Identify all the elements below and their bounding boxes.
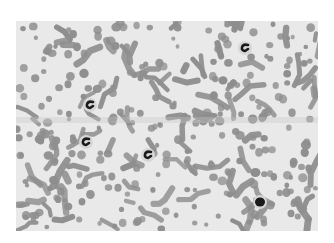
red-blood-cell xyxy=(55,84,63,91)
rbc-clump xyxy=(285,28,287,46)
red-blood-cell xyxy=(286,125,292,131)
red-blood-cell xyxy=(23,215,29,220)
red-blood-cell xyxy=(209,174,218,182)
red-blood-cell xyxy=(65,80,72,88)
red-blood-cell xyxy=(101,175,107,181)
red-blood-cell xyxy=(150,187,155,193)
red-blood-cell xyxy=(105,184,112,191)
red-blood-cell xyxy=(171,36,175,40)
red-blood-cell xyxy=(29,23,38,31)
red-blood-cell xyxy=(35,135,45,144)
rbc-clump xyxy=(65,174,69,181)
red-blood-cell xyxy=(64,50,72,58)
rbc-clump xyxy=(82,173,102,186)
red-blood-cell xyxy=(20,26,26,31)
red-blood-cell xyxy=(210,59,217,65)
red-blood-cell xyxy=(16,134,23,141)
red-blood-cell xyxy=(98,151,104,156)
rbc-clump xyxy=(61,186,66,212)
red-blood-cell xyxy=(147,25,153,31)
leukocyte-nucleus-1 xyxy=(83,98,97,112)
leukocyte-nucleus-5 xyxy=(253,195,267,209)
red-blood-cell xyxy=(247,72,254,79)
rbc-clump xyxy=(77,47,100,64)
red-blood-cell xyxy=(133,219,140,226)
red-blood-cell xyxy=(218,111,223,116)
red-blood-cell xyxy=(156,172,161,177)
rbc-clump xyxy=(201,56,203,75)
red-blood-cell xyxy=(98,80,106,89)
red-blood-cell xyxy=(249,94,255,101)
blood-smear-micrograph xyxy=(16,21,318,231)
red-blood-cell xyxy=(298,164,305,170)
red-blood-cell xyxy=(125,191,130,196)
red-blood-cell xyxy=(79,198,86,205)
red-blood-cell xyxy=(290,158,298,167)
red-blood-cell xyxy=(137,110,144,117)
red-blood-cell xyxy=(79,69,88,78)
rbc-clump xyxy=(240,148,249,170)
red-blood-cell xyxy=(34,36,38,41)
rbc-clump xyxy=(175,79,198,82)
red-blood-cell xyxy=(286,57,292,64)
rbc-clump xyxy=(55,217,73,221)
rbc-clump xyxy=(44,204,51,216)
red-blood-cell xyxy=(152,123,157,129)
red-blood-cell xyxy=(261,135,268,141)
red-blood-cell xyxy=(250,144,256,150)
leukocyte-nucleus-4 xyxy=(141,148,155,162)
scan-band xyxy=(16,117,318,123)
red-blood-cell xyxy=(268,146,275,153)
red-blood-cell xyxy=(301,148,309,157)
rbc-clump xyxy=(69,165,87,169)
red-blood-cell xyxy=(96,156,104,164)
red-blood-cell xyxy=(279,95,287,104)
red-blood-cell xyxy=(205,27,212,33)
rbc-clump xyxy=(241,62,262,68)
leukocyte-nucleus-3 xyxy=(79,135,93,149)
rbc-clump xyxy=(28,200,43,202)
red-blood-cell xyxy=(209,160,214,165)
rbc-clump xyxy=(315,33,316,40)
rbc-clump xyxy=(154,188,173,204)
red-blood-cell xyxy=(94,32,102,41)
leukocyte-nucleus-2 xyxy=(238,41,252,55)
red-blood-cell xyxy=(158,225,166,231)
red-blood-cell xyxy=(162,208,170,216)
red-blood-cell xyxy=(20,64,28,72)
rbc-clump xyxy=(302,196,312,211)
red-blood-cell xyxy=(76,217,82,223)
red-blood-cell xyxy=(114,184,121,192)
rbc-clump xyxy=(184,65,187,71)
red-blood-cell xyxy=(262,147,269,154)
red-blood-cell xyxy=(301,60,308,67)
red-blood-cell xyxy=(85,85,92,92)
rbc-clump xyxy=(52,138,55,146)
rbc-clump xyxy=(46,47,49,52)
red-blood-cell xyxy=(44,225,49,229)
red-blood-cell xyxy=(249,28,257,36)
rbc-clump xyxy=(311,150,319,185)
rbc-clump xyxy=(126,201,134,203)
red-blood-cell xyxy=(55,196,61,203)
red-blood-cell xyxy=(271,22,276,27)
red-blood-cell xyxy=(313,186,318,191)
red-blood-cell xyxy=(38,103,44,110)
red-blood-cell xyxy=(283,70,291,78)
red-blood-cell xyxy=(176,44,180,49)
red-blood-cell xyxy=(108,173,115,181)
rbc-clump xyxy=(28,165,41,185)
red-blood-cell xyxy=(212,76,219,82)
rbc-clump xyxy=(16,107,37,117)
red-blood-cell xyxy=(277,190,283,196)
rbc-clump xyxy=(229,171,233,193)
rbc-clump xyxy=(257,209,263,217)
red-blood-cell xyxy=(283,171,292,180)
red-blood-cell xyxy=(267,56,273,62)
red-blood-cell xyxy=(41,69,46,74)
red-blood-cell xyxy=(119,219,127,227)
red-blood-cell xyxy=(192,221,197,226)
rbc-clump xyxy=(232,221,243,232)
red-blood-cell xyxy=(307,58,313,63)
red-blood-cell xyxy=(27,131,33,137)
